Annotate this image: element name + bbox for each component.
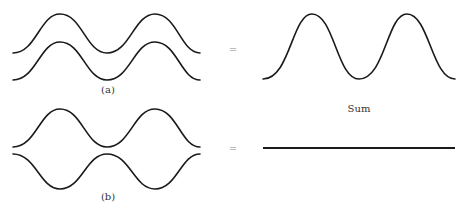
- panel-a-equals-sign: =: [229, 44, 237, 55]
- panel-a-wave-2: [13, 42, 200, 80]
- panel-b-label: (b): [101, 191, 115, 202]
- panel-a-sum-wave: [263, 14, 455, 79]
- interference-diagram: [0, 0, 463, 211]
- panel-a-label: (a): [101, 84, 115, 95]
- panel-b-wave-2: [13, 154, 200, 189]
- panel-b-wave-1: [13, 109, 200, 147]
- sum-label: Sum: [348, 103, 371, 114]
- panel-a-wave-1: [13, 14, 200, 53]
- panel-b-equals-sign: =: [229, 143, 237, 154]
